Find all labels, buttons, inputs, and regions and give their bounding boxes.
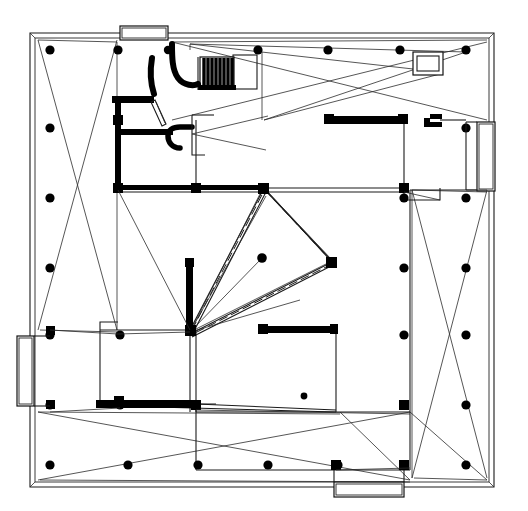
top-projection [120,26,168,40]
floor-plan-canvas: Floor Plan No textual annotations are pr… [0,0,528,511]
elevator-shaft [413,52,443,75]
right-projection [477,122,495,191]
floor-plan-drawing [0,0,528,511]
curved-wall-vertical-fin [151,58,154,94]
left-projection [17,336,34,406]
bottom-projection [334,482,404,497]
